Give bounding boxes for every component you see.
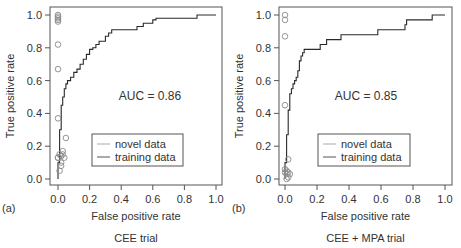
y-tick-label: 0.6: [256, 75, 271, 87]
y-tick-label: 0.4: [256, 107, 271, 119]
x-tick-label: 0.8: [405, 193, 420, 205]
roc-figure: 0.00.20.40.60.81.00.00.20.40.60.81.0Fals…: [0, 0, 461, 248]
x-tick-label: 0.0: [50, 193, 65, 205]
x-tick-label: 0.6: [373, 193, 388, 205]
y-tick-label: 0.2: [256, 140, 271, 152]
y-axis-label: True positive rate: [233, 54, 245, 139]
x-tick-label: 1.0: [437, 193, 452, 205]
panel-label: (b): [232, 202, 245, 214]
legend-training-label: training data: [115, 151, 176, 163]
y-tick-label: 0.0: [27, 173, 42, 185]
x-tick-label: 0.2: [309, 193, 324, 205]
roc-panel-b: 0.00.20.40.60.81.00.00.20.40.60.81.0Fals…: [232, 7, 453, 244]
novel-data-point: [63, 135, 69, 141]
legend-novel-label: novel data: [115, 138, 167, 150]
x-axis-label: False positive rate: [91, 210, 180, 222]
panel-title: CEE + MPA trial: [326, 232, 404, 244]
y-axis-label: True positive rate: [4, 54, 16, 139]
panel-label: (a): [2, 202, 15, 214]
x-tick-label: 0.2: [82, 193, 97, 205]
x-tick-label: 0.8: [177, 193, 192, 205]
novel-data-point: [55, 42, 61, 48]
y-tick-label: 0.6: [27, 75, 42, 87]
legend-novel-label: novel data: [341, 138, 393, 150]
x-tick-label: 1.0: [208, 193, 223, 205]
novel-data-point: [55, 116, 61, 122]
legend-training-label: training data: [341, 151, 402, 163]
x-tick-label: 0.4: [114, 193, 129, 205]
y-tick-label: 0.8: [256, 42, 271, 54]
x-axis-label: False positive rate: [321, 210, 410, 222]
y-tick-label: 0.4: [27, 107, 42, 119]
panel-title: CEE trial: [114, 232, 157, 244]
y-tick-label: 0.8: [27, 42, 42, 54]
y-tick-label: 1.0: [256, 9, 271, 21]
auc-annotation: AUC = 0.85: [335, 89, 398, 103]
y-tick-label: 0.0: [256, 173, 271, 185]
novel-data-point: [282, 34, 288, 40]
legend: novel datatraining data: [318, 134, 410, 166]
novel-data-point: [55, 66, 61, 72]
roc-panel-a: 0.00.20.40.60.81.00.00.20.40.60.81.0Fals…: [2, 7, 224, 244]
x-tick-label: 0.0: [277, 193, 292, 205]
x-tick-label: 0.6: [145, 193, 160, 205]
legend: novel datatraining data: [92, 134, 183, 166]
y-tick-label: 0.2: [27, 140, 42, 152]
y-tick-label: 1.0: [27, 9, 42, 21]
auc-annotation: AUC = 0.86: [119, 89, 182, 103]
novel-data-point: [282, 102, 288, 108]
x-tick-label: 0.4: [341, 193, 356, 205]
